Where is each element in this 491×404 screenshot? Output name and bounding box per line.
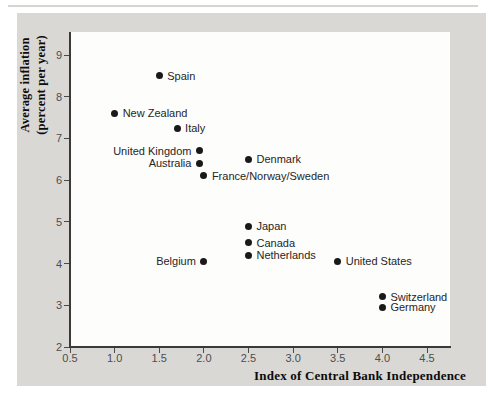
y-tick (64, 138, 69, 139)
x-tick-label: 3.5 (322, 352, 354, 365)
y-tick (64, 96, 69, 97)
data-point (174, 125, 181, 132)
data-point (111, 110, 118, 117)
x-tick-label: 4.5 (411, 352, 443, 365)
data-point-label: Germany (390, 300, 435, 314)
data-point-label: United States (346, 254, 412, 268)
x-tick-label: 2.5 (233, 352, 265, 365)
scatter-chart-figure: Average inflation (percent per year) Ind… (0, 0, 491, 404)
data-point-label: New Zealand (123, 106, 188, 120)
data-point (379, 293, 386, 300)
y-tick-label: 5 (36, 215, 62, 229)
data-point-label: Netherlands (257, 248, 316, 262)
data-point (200, 172, 207, 179)
data-point-label: Belgium (156, 254, 196, 268)
y-tick-label: 4 (36, 257, 62, 271)
x-tick-label: 4.0 (366, 352, 398, 365)
data-point-label: Denmark (257, 152, 302, 166)
y-tick (64, 221, 69, 222)
y-tick (64, 180, 69, 181)
data-point (196, 160, 203, 167)
y-tick-label: 8 (36, 90, 62, 104)
data-point-label: Spain (167, 69, 195, 83)
x-tick-label: 1.0 (99, 352, 131, 365)
plot-layer: 0.51.01.52.02.53.03.54.04.523456789Spain… (0, 0, 491, 404)
data-point-label: France/Norway/Sweden (212, 169, 329, 183)
y-tick (64, 347, 69, 348)
data-point (196, 147, 203, 154)
data-point (200, 258, 207, 265)
x-tick-label: 2.0 (188, 352, 220, 365)
data-point (334, 258, 341, 265)
data-point (379, 304, 386, 311)
data-point-label: Italy (185, 121, 205, 135)
y-tick-label: 7 (36, 131, 62, 145)
y-tick (64, 305, 69, 306)
y-tick-label: 9 (36, 48, 62, 62)
x-tick-label: 3.0 (277, 352, 309, 365)
data-point (245, 239, 252, 246)
data-point-label: Japan (257, 219, 287, 233)
data-point (245, 223, 252, 230)
data-point (156, 72, 163, 79)
data-point (245, 252, 252, 259)
x-tick-label: 1.5 (143, 352, 175, 365)
y-tick-label: 3 (36, 298, 62, 312)
y-tick-label: 6 (36, 173, 62, 187)
y-tick (64, 55, 69, 56)
data-point (245, 156, 252, 163)
y-tick-label: 2 (36, 340, 62, 354)
data-point-label: Australia (149, 156, 192, 170)
y-tick (64, 263, 69, 264)
